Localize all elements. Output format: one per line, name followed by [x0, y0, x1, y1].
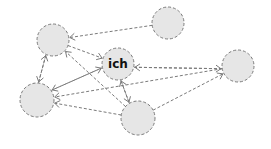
- node-n1: [37, 24, 69, 56]
- edge-n6-to-n5: [55, 101, 122, 115]
- node-label-ich: ich: [108, 57, 128, 71]
- node-n6: [121, 101, 155, 135]
- edge-n4-to-n5: [55, 69, 222, 100]
- edge-n2-to-n1: [70, 25, 152, 40]
- edge-n1-to-ich: [68, 46, 102, 60]
- node-n2: [152, 7, 184, 39]
- network-diagram: [0, 0, 271, 149]
- edge-n6-to-n4: [153, 73, 223, 110]
- edge-n4-to-ich: [135, 64, 222, 71]
- node-n4: [222, 50, 254, 82]
- edge-ich-to-n4: [134, 65, 221, 72]
- node-n5: [20, 83, 54, 117]
- arrowhead-icon: [217, 73, 223, 79]
